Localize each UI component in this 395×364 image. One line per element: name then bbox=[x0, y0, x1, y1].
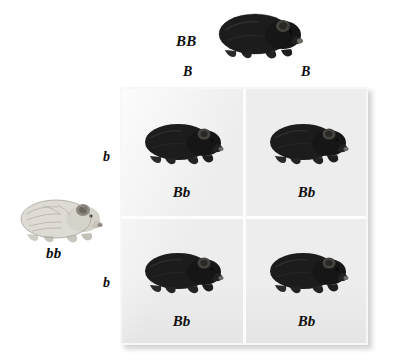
guinea-pig-illustration-parent-top bbox=[211, 6, 307, 62]
guinea-pig-illustration-offspring-0-0 bbox=[137, 117, 227, 165]
guinea-pig-illustration-offspring-1-0 bbox=[137, 246, 227, 294]
guinea-pig-illustration-offspring-1-1 bbox=[262, 246, 352, 294]
guinea-pig-illustration-offspring-0-1 bbox=[262, 117, 352, 165]
row-header-gamete-0: b bbox=[103, 150, 110, 164]
row-header-gamete-1: b bbox=[103, 276, 110, 290]
guinea-pig-illustration-parent-left bbox=[14, 192, 106, 246]
grid-divider-horizontal bbox=[120, 216, 368, 219]
parent-genotype-left: bb bbox=[46, 246, 61, 261]
punnett-cell-genotype-1-1: Bb bbox=[245, 313, 368, 330]
punnett-cell-1-0: Bb bbox=[120, 216, 243, 345]
parent-genotype-top: BB bbox=[176, 34, 196, 49]
punnett-cell-0-1: Bb bbox=[245, 87, 368, 216]
punnett-cell-genotype-0-0: Bb bbox=[120, 184, 243, 201]
punnett-grid: Bb Bb bbox=[120, 87, 368, 345]
punnett-cell-genotype-0-1: Bb bbox=[245, 184, 368, 201]
punnett-cell-0-0: Bb bbox=[120, 87, 243, 216]
punnett-cell-genotype-1-0: Bb bbox=[120, 313, 243, 330]
column-header-gamete-1: B bbox=[301, 65, 311, 79]
column-header-gamete-0: B bbox=[183, 65, 193, 79]
punnett-cell-1-1: Bb bbox=[245, 216, 368, 345]
punnett-square-figure: BB B B bb b bbox=[0, 0, 395, 364]
